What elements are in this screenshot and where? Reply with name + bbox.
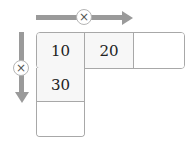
cell-r0c0: 10 — [37, 33, 85, 68]
cell-r0c2-empty[interactable] — [134, 33, 184, 68]
multiply-icon-vertical: × — [13, 60, 29, 76]
right-arrow-icon — [122, 11, 133, 25]
cell-r0c1: 20 — [85, 33, 134, 68]
cell-r1c0: 30 — [37, 68, 84, 102]
multiply-icon-horizontal: × — [76, 9, 92, 25]
down-arrow-icon — [15, 92, 29, 103]
left-column: 30 — [36, 68, 85, 137]
top-row: 10 20 — [36, 32, 185, 69]
cell-r2c0-empty[interactable] — [37, 102, 84, 136]
